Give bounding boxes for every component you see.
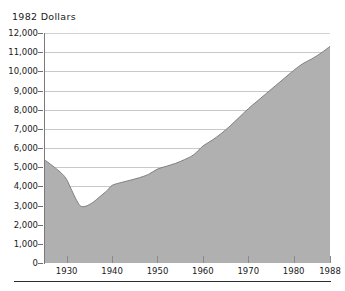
x-axis-tick-mark (294, 256, 295, 263)
x-axis-tick-mark (67, 256, 68, 263)
x-axis-tick-mark (248, 256, 249, 263)
x-axis-tick-mark (330, 256, 331, 263)
bottom-rule (14, 281, 331, 282)
x-axis-labels: 1930194019501960197019801988 (0, 0, 345, 291)
x-axis-tick-label: 1988 (319, 267, 341, 276)
chart-figure: 1982 Dollars 12,00011,00010,0009,0008,00… (0, 0, 345, 291)
x-axis-tick-label: 1980 (283, 267, 305, 276)
x-axis-tick-label: 1960 (192, 267, 214, 276)
x-axis-tick-label: 1970 (237, 267, 259, 276)
x-axis-tick-mark (157, 256, 158, 263)
x-axis-tick-label: 1940 (101, 267, 123, 276)
x-axis-tick-label: 1950 (147, 267, 169, 276)
x-axis-tick-mark (203, 256, 204, 263)
x-axis-tick-mark (112, 256, 113, 263)
x-axis-tick-label: 1930 (56, 267, 78, 276)
